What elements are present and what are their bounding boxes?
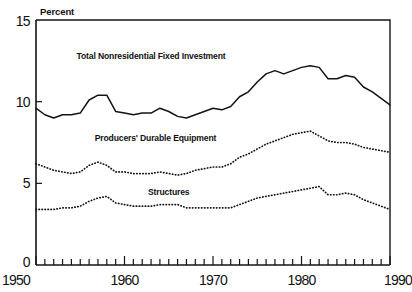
series-label-1: Total Nonresidential Fixed Investment [77,51,226,61]
x-tick-label: 1990 [384,272,412,288]
y-tick-label: 5 [23,175,31,191]
x-tick-label: 1980 [288,272,317,288]
series-line-1 [36,66,390,118]
y-tick-label: 10 [16,94,31,110]
x-tick-label: 1970 [199,272,228,288]
series-label-3: Structures [148,187,190,197]
x-tick-label: 1960 [111,272,140,288]
chart-container: 051015Percent19501960197019801990Total N… [0,0,412,292]
series-line-3 [36,187,390,210]
series-label-2: Producers' Durable Equipment [95,133,217,143]
y-tick-label: 15 [16,13,31,29]
x-tick-label: 1950 [2,272,31,288]
line-chart: 051015Percent19501960197019801990Total N… [0,0,412,292]
y-axis-label: Percent [40,6,75,17]
y-tick-label: 0 [23,254,31,270]
